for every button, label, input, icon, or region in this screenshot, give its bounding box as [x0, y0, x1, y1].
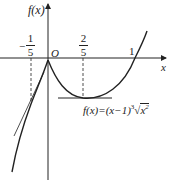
y-axis-label: f(x)	[28, 4, 45, 16]
function-curve-left-branch	[12, 60, 48, 172]
numerator: 1	[28, 32, 34, 44]
graph-canvas	[0, 0, 171, 182]
denominator: 5	[81, 46, 87, 58]
function-curve-right-branch	[48, 31, 147, 98]
tick-label-one: 1	[129, 46, 135, 57]
x-axis-label: x	[161, 62, 166, 73]
function-label: f(x)=(x−1)3√x2	[83, 104, 149, 116]
numerator: 2	[81, 32, 87, 44]
tick-label-neg-one-fifth: 1 5	[26, 33, 35, 58]
function-graph-figure: f(x) x O − 1 5 2 5 1 f(x)=(x−1)3√x2	[0, 0, 171, 182]
denominator: 5	[28, 46, 34, 58]
origin-label: O	[51, 48, 59, 59]
tick-label-two-fifths: 2 5	[79, 33, 88, 58]
minus-sign: −	[19, 41, 25, 52]
